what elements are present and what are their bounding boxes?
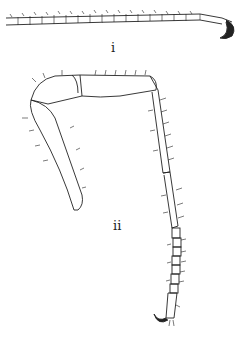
trochanter [30, 100, 82, 210]
claw-i [220, 20, 234, 39]
coxa [31, 75, 82, 104]
illustration [0, 0, 240, 342]
tarsus [163, 172, 178, 228]
setae [22, 70, 186, 326]
leg-ii [22, 70, 186, 326]
panel-label-ii: ii [113, 218, 121, 233]
panel-label-i: i [111, 40, 115, 55]
appendage-i [6, 10, 234, 39]
tarsal-segments [166, 228, 181, 318]
femur [80, 75, 156, 97]
